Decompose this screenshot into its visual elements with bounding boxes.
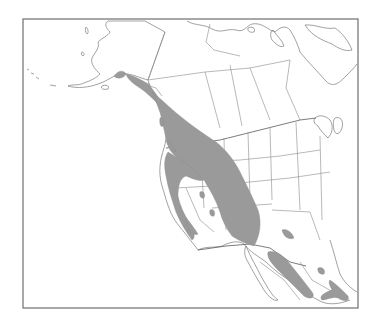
- range-map: [0, 0, 374, 320]
- range-region-great-basin-1: [200, 191, 205, 198]
- map-canvas: [0, 0, 374, 320]
- range-region-great-basin-2: [210, 209, 215, 216]
- range-region-haida-gwaii: [160, 117, 164, 126]
